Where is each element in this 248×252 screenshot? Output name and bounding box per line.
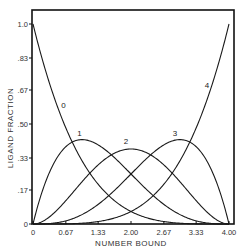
x-tick-label: 0.67 bbox=[59, 228, 74, 237]
x-tick-label: 1.33 bbox=[91, 228, 106, 237]
x-tick-label: 0 bbox=[31, 228, 35, 237]
plot-border bbox=[32, 10, 234, 224]
curve-4 bbox=[33, 24, 229, 224]
curve-label-1: 1 bbox=[77, 129, 82, 138]
plot-frame bbox=[32, 10, 234, 224]
x-tick-label: 3.33 bbox=[189, 228, 204, 237]
ligand-fraction-chart: 01234 00.671.332.002.673.334.00 0.17.33.… bbox=[0, 0, 248, 252]
curve-label-2: 2 bbox=[124, 137, 129, 146]
curve-label-3: 3 bbox=[173, 129, 178, 138]
curve-label-0: 0 bbox=[61, 101, 66, 110]
x-tick-label: 4.00 bbox=[222, 228, 237, 237]
y-tick-label: .83 bbox=[18, 54, 28, 63]
y-tick-label: .17 bbox=[18, 186, 28, 195]
y-tick-label: .67 bbox=[18, 86, 28, 95]
x-tick-label: 2.00 bbox=[124, 228, 139, 237]
curve-labels: 01234 bbox=[61, 81, 210, 146]
curve-label-4: 4 bbox=[205, 81, 210, 90]
y-axis-title: LIGAND FRACTION bbox=[6, 88, 15, 168]
y-tick-label: .50 bbox=[18, 120, 28, 129]
y-tick-label: 1.0 bbox=[18, 20, 28, 29]
curve-2 bbox=[33, 149, 229, 224]
curve-0 bbox=[33, 24, 229, 224]
x-axis-title: NUMBER BOUND bbox=[95, 239, 167, 248]
curves bbox=[33, 24, 229, 224]
x-tick-label: 2.67 bbox=[157, 228, 172, 237]
y-tick-label: 0 bbox=[24, 220, 28, 229]
y-axis-ticks: 0.17.33.50.67.831.0 bbox=[18, 20, 32, 229]
y-tick-label: .33 bbox=[18, 154, 28, 163]
